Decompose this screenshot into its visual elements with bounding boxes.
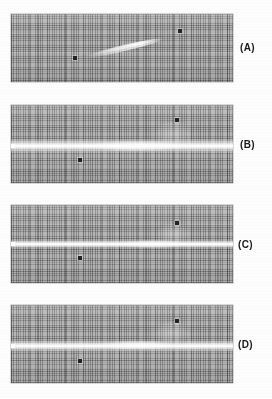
marker-dot <box>73 56 77 60</box>
panel-label-c: (C) <box>238 239 253 250</box>
band-knot-b <box>95 140 179 151</box>
marker-dot <box>178 29 182 33</box>
marker-dot <box>78 158 82 162</box>
marker-dot <box>78 359 82 363</box>
band-edge-tick-b <box>11 144 15 148</box>
panel-label-b: (B) <box>240 139 255 150</box>
band-knot-c <box>122 240 184 248</box>
band-edge-tick-d <box>11 344 15 348</box>
marker-dot <box>175 319 179 323</box>
panel-label-d: (D) <box>238 339 253 350</box>
image-panel-a[interactable] <box>11 14 233 82</box>
image-panel-c[interactable] <box>11 205 233 283</box>
band-edge-tick-c <box>11 242 15 246</box>
band-knot-d <box>104 340 171 349</box>
image-panel-d[interactable] <box>11 305 233 383</box>
panel-label-a: (A) <box>240 42 255 53</box>
image-panel-b[interactable] <box>11 105 233 183</box>
figure-container: (A) (B) <box>0 0 272 399</box>
marker-dot <box>175 118 179 122</box>
marker-dot <box>78 256 82 260</box>
marker-dot <box>175 221 179 225</box>
